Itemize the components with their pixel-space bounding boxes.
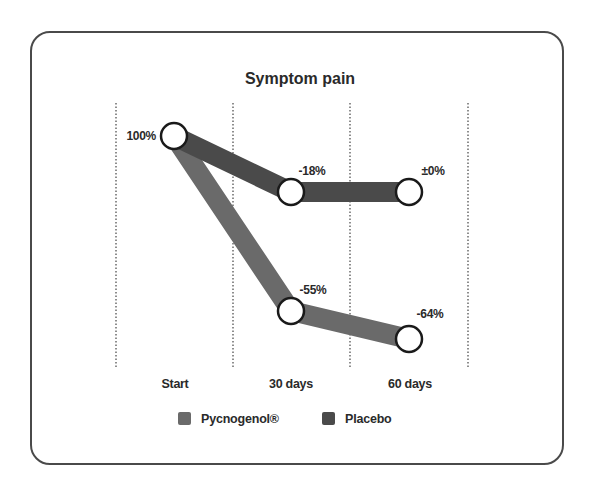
- marker-pycnogenol-60: [396, 326, 422, 352]
- chart-title: Symptom pain: [245, 70, 355, 87]
- label-pycnogenol-60: -64%: [417, 307, 444, 321]
- line-chart: Symptom pain 100% -18% ±0% -55% -64% Sta…: [0, 0, 597, 501]
- x-tick-30-days: 30 days: [269, 377, 313, 391]
- marker-placebo-30: [278, 179, 304, 205]
- legend-label-placebo: Placebo: [345, 412, 392, 426]
- legend-swatch-pycnogenol: [178, 412, 191, 425]
- label-placebo-30: -18%: [299, 164, 326, 178]
- x-tick-start: Start: [162, 377, 190, 391]
- marker-start: [161, 123, 187, 149]
- label-start: 100%: [127, 129, 157, 143]
- marker-placebo-60: [396, 179, 422, 205]
- label-placebo-60: ±0%: [421, 164, 445, 178]
- marker-pycnogenol-30: [278, 298, 304, 324]
- legend-label-pycnogenol: Pycnogenol®: [201, 412, 280, 426]
- legend-swatch-placebo: [322, 412, 335, 425]
- legend: Pycnogenol® Placebo: [178, 412, 392, 426]
- label-pycnogenol-30: -55%: [300, 283, 327, 297]
- x-tick-60-days: 60 days: [388, 377, 432, 391]
